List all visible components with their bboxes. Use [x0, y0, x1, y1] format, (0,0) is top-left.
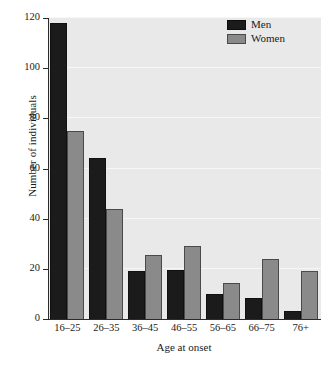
- bar-group: [203, 18, 242, 319]
- bar-men: [167, 270, 184, 319]
- y-tick-label: 80: [30, 111, 41, 122]
- legend-swatch-women: [227, 34, 246, 44]
- x-tick-label: 16–25: [48, 322, 87, 333]
- bar-men: [89, 158, 106, 319]
- bar-men: [284, 311, 301, 319]
- bar-women: [301, 271, 318, 319]
- bar-group: [165, 18, 204, 319]
- bar-women: [262, 259, 279, 319]
- bar-women: [223, 283, 240, 319]
- x-tick-label: 46–55: [165, 322, 204, 333]
- bar-men: [206, 294, 223, 319]
- bar-group: [281, 18, 320, 319]
- bar-women: [184, 246, 201, 319]
- x-axis-ticks: 16–2526–3536–4546–5556–6566–7576+: [48, 322, 320, 333]
- y-tick-label: 60: [30, 162, 41, 173]
- bar-women: [145, 255, 162, 319]
- legend-label: Women: [251, 33, 285, 44]
- x-tick-label: 36–45: [126, 322, 165, 333]
- bar-women: [106, 209, 123, 319]
- bar-men: [50, 23, 67, 319]
- y-tick-label: 0: [35, 312, 40, 323]
- y-tick-label: 20: [30, 262, 41, 273]
- x-tick-label: 66–75: [242, 322, 281, 333]
- bar-group: [48, 18, 87, 319]
- bar-group: [242, 18, 281, 319]
- bar-group: [87, 18, 126, 319]
- x-tick-label: 56–65: [203, 322, 242, 333]
- legend-label: Men: [251, 19, 271, 30]
- x-tick-label: 76+: [281, 322, 320, 333]
- y-tick-label: 40: [30, 212, 41, 223]
- y-tick-label: 120: [24, 11, 40, 22]
- legend-entry: Women: [227, 33, 285, 44]
- x-tick-label: 26–35: [87, 322, 126, 333]
- bar-men: [245, 298, 262, 319]
- legend-entry: Men: [227, 19, 285, 30]
- bar-women: [67, 131, 84, 319]
- bar-men: [128, 271, 145, 319]
- y-axis-ticks: 020406080100120: [0, 18, 48, 319]
- bar-group: [126, 18, 165, 319]
- chart-legend: MenWomen: [227, 19, 285, 44]
- bar-chart-figure: Number of individuals 020406080100120 16…: [0, 0, 332, 380]
- bar-groups: [48, 18, 320, 319]
- legend-swatch-men: [227, 20, 246, 30]
- x-axis-title: Age at onset: [48, 341, 320, 353]
- y-tick-label: 100: [24, 61, 40, 72]
